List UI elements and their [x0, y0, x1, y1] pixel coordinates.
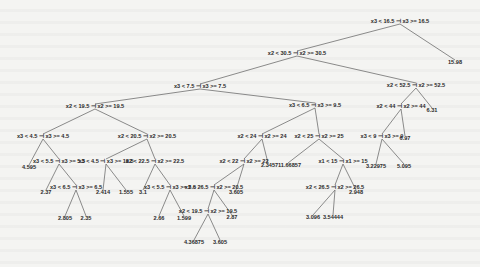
tree-edge: [400, 24, 455, 60]
leaf-value: 2.805: [58, 215, 72, 221]
split-node-label: x1 < 15 ⊣ x1 >= 15: [318, 158, 367, 164]
tree-edge: [214, 164, 244, 185]
leaf-value: 2.35: [81, 215, 92, 221]
leaf-value: 1.555: [119, 189, 133, 195]
tree-edge: [106, 164, 126, 190]
split-node-label: x2 < 24 ⊣ x2 >= 24: [237, 133, 287, 139]
tree-edge: [335, 164, 343, 185]
leaf-value: 2.345: [261, 162, 275, 168]
tree-edge: [208, 190, 214, 209]
leaf-value: 6.31: [427, 107, 438, 113]
tree-edge: [95, 89, 200, 104]
tree-edge: [200, 89, 315, 103]
tree-edge: [147, 139, 155, 159]
split-node-label: x3 < 5.5 ⊣ x3 >= 5.5: [33, 158, 85, 164]
tree-edge: [297, 56, 416, 83]
split-node-label: x3 < 9 ⊣ x3 >= 9: [361, 133, 404, 139]
leaf-value: 2.87: [227, 214, 238, 220]
tree-edge: [244, 139, 262, 159]
split-node-label: x3 < 7.5 ⊣ x3 >= 7.5: [174, 83, 226, 89]
leaf-value: 2.66: [154, 215, 165, 221]
leaf-value: 15.98: [448, 59, 462, 65]
leaf-value: 2.414: [96, 189, 111, 195]
split-node-label: x2 < 52.5 ⊣ x2 >= 52.5: [387, 82, 445, 88]
leaf-value: 3.54444: [323, 214, 344, 220]
tree-edge: [382, 109, 401, 134]
leaf-value: 6.97: [400, 135, 411, 141]
split-node-label: x3 < 16.5 ⊣ x3 >= 16.5: [371, 18, 429, 24]
tree-edge: [106, 139, 147, 159]
tree-edges: [29, 24, 455, 240]
leaf-value: 3.096: [306, 214, 320, 220]
tree-edge: [319, 139, 343, 159]
tree-edge: [401, 109, 405, 136]
leaf-value: 1.599: [177, 215, 191, 221]
tree-edge: [297, 24, 400, 51]
tree-edge: [313, 190, 335, 215]
split-node-label: x3 < 6.5 ⊣ x3 >= 9.5: [289, 102, 341, 108]
split-node-label: x2 < 30.5 ⊣ x2 >= 30.5: [268, 50, 326, 56]
split-node-label: x2 < 20.5 ⊣ x2 >= 20.5: [118, 133, 176, 139]
tree-edge: [376, 139, 382, 164]
tree-edge: [43, 109, 95, 134]
split-node-label: x2 < 25 ⊣ x2 >= 25: [294, 133, 343, 139]
leaf-value: 3.22975: [366, 163, 386, 169]
leaf-value: 5.095: [397, 163, 411, 169]
tree-edge: [76, 190, 86, 216]
tree-edge: [194, 214, 208, 240]
tree-edge: [155, 164, 170, 185]
tree-edge: [103, 164, 106, 190]
leaf-value: 3.605: [213, 239, 227, 245]
leaf-value: 3.605: [229, 189, 243, 195]
tree-edge: [43, 139, 59, 159]
leaf-value: 4.36875: [184, 239, 204, 245]
tree-edge: [333, 190, 335, 215]
split-node-label: x3 < 4.5 ⊣ x3 >= 4.5: [17, 133, 69, 139]
tree-edge: [159, 190, 170, 216]
split-node-label: x3 < 6.5 ⊣ x3 >= 6.5: [50, 184, 102, 190]
tree-edge: [262, 108, 315, 134]
tree-edge: [95, 109, 147, 134]
tree-edge: [65, 190, 76, 216]
tree-edge: [200, 56, 297, 84]
tree-edge: [315, 108, 319, 134]
split-node-label: x2 < 22.5 ⊣ x2 >= 22.5: [126, 158, 184, 164]
tree-edge: [401, 88, 416, 104]
leaf-value: 2.948: [349, 189, 363, 195]
leaf-value: 4.595: [22, 164, 36, 170]
leaf-value: 711.66857: [275, 162, 301, 168]
tree-edge: [382, 139, 404, 164]
split-node-label: x2 < 44 ⊣ x2 >= 44: [376, 103, 426, 109]
tree-edge: [208, 214, 220, 240]
split-node-label: x2 < 19.5 ⊣ x2 >= 19.5: [66, 103, 124, 109]
tree-edge: [59, 164, 76, 185]
decision-tree-diagram: x3 < 16.5 ⊣ x3 >= 16.5x2 < 30.5 ⊣ x2 >= …: [0, 0, 480, 267]
tree-edge: [288, 139, 319, 163]
